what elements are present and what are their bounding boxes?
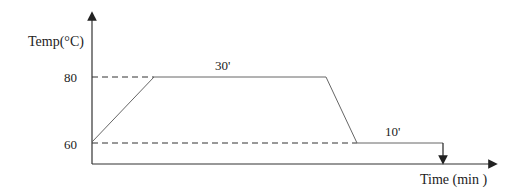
tick-80: 80	[64, 70, 77, 86]
temperature-profile-diagram: Temp(°C) 80 60 30' 10' Time (min )	[0, 0, 521, 195]
y-axis-label: Temp(°C)	[28, 34, 84, 50]
hold-high-label: 30'	[215, 58, 230, 74]
tick-60: 60	[64, 137, 77, 153]
hold-low-label: 10'	[385, 124, 400, 140]
diagram-lines	[0, 0, 521, 195]
x-axis-label: Time (min )	[420, 172, 487, 188]
